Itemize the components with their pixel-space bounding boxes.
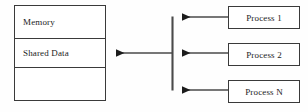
process-n-box: Process N [228, 80, 300, 103]
memory-table: Memory Shared Data [14, 5, 106, 101]
diagram-canvas: Memory Shared Data Process 1 Process 2 P… [0, 0, 308, 112]
process-1-label: Process 1 [246, 13, 282, 23]
shared-data-row-label: Shared Data [15, 48, 69, 58]
process-n-label: Process N [245, 87, 283, 97]
process-1-box: Process 1 [228, 6, 300, 29]
shared-data-row: Shared Data [15, 39, 105, 68]
empty-row [15, 68, 105, 100]
process-2-box: Process 2 [228, 43, 300, 66]
memory-row: Memory [15, 6, 105, 39]
process-2-label: Process 2 [246, 50, 282, 60]
memory-row-label: Memory [15, 17, 55, 27]
